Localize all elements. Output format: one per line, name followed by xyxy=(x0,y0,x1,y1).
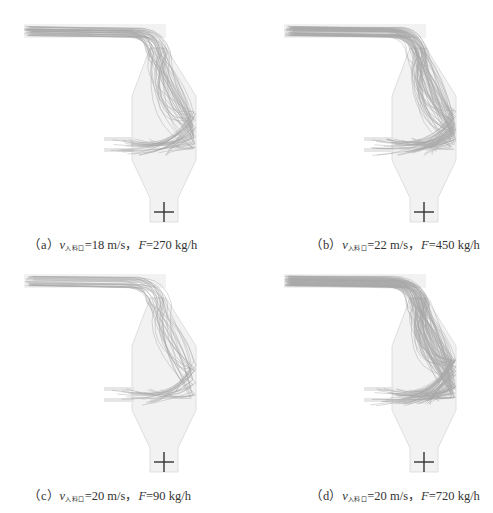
separator-diagram-c xyxy=(0,250,230,480)
side-inlet-upper xyxy=(364,387,394,391)
side-inlet-upper xyxy=(104,387,134,391)
velocity-value: =20 m/s， xyxy=(85,489,139,503)
caption-label: （d） xyxy=(310,489,342,503)
panel-c xyxy=(0,250,230,500)
side-inlet-lower xyxy=(104,398,134,402)
caption-d: （d）v入料口=20 m/s，F=720 kg/h xyxy=(310,485,480,504)
velocity-subscript: 入料口 xyxy=(65,496,85,502)
separator-diagram-a xyxy=(0,0,230,230)
panel-b xyxy=(260,0,490,250)
feed-value: =90 kg/h xyxy=(146,489,191,503)
panel-a xyxy=(0,0,230,250)
feed-value: =720 kg/h xyxy=(429,489,480,503)
side-inlet-upper xyxy=(104,137,134,141)
panel-d xyxy=(260,250,490,500)
separator-diagram-d xyxy=(260,250,490,480)
caption-label: （c） xyxy=(28,489,60,503)
caption-c: （c）v入料口=20 m/s，F=90 kg/h xyxy=(28,485,191,504)
feed-symbol: F xyxy=(421,489,429,503)
separator-diagram-b xyxy=(260,0,490,230)
feed-symbol: F xyxy=(138,489,146,503)
particle-trajectories xyxy=(284,276,456,406)
velocity-value: =20 m/s， xyxy=(367,489,421,503)
velocity-subscript: 入料口 xyxy=(348,496,368,502)
